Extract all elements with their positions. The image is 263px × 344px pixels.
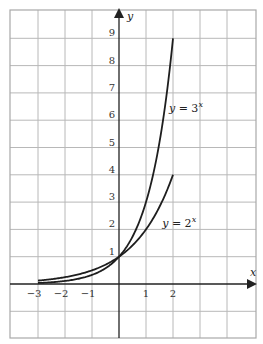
y-tick-label: 1 (109, 246, 115, 257)
labels: −3−2−112123456789xyy = 3xy = 2x (27, 10, 257, 299)
x-tick-label: 2 (170, 288, 176, 299)
y-tick-label: 2 (109, 218, 115, 229)
plot-border (10, 10, 256, 338)
x-tick-label: −3 (27, 288, 42, 299)
y-tick-label: 7 (109, 82, 115, 93)
curves (38, 38, 173, 283)
y-tick-label: 6 (109, 109, 115, 120)
axes (10, 8, 257, 338)
curve-label: y = 3x (168, 100, 203, 115)
exponential-chart: −3−2−112123456789xyy = 3xy = 2x (0, 0, 263, 344)
x-tick-label: −1 (81, 288, 96, 299)
x-tick-label: −2 (54, 288, 69, 299)
grid-lines (10, 10, 256, 338)
curve-label: y = 2x (161, 215, 196, 230)
curve-y-3-x (38, 38, 173, 283)
y-axis-label: y (126, 10, 134, 23)
curve-y-2-x (38, 175, 173, 281)
x-tick-label: 1 (143, 288, 149, 299)
y-tick-label: 8 (109, 55, 115, 66)
y-tick-label: 9 (109, 27, 115, 38)
y-tick-label: 3 (109, 191, 115, 202)
y-tick-label: 4 (109, 164, 115, 175)
y-tick-label: 5 (109, 137, 115, 148)
x-axis-label: x (250, 266, 257, 279)
